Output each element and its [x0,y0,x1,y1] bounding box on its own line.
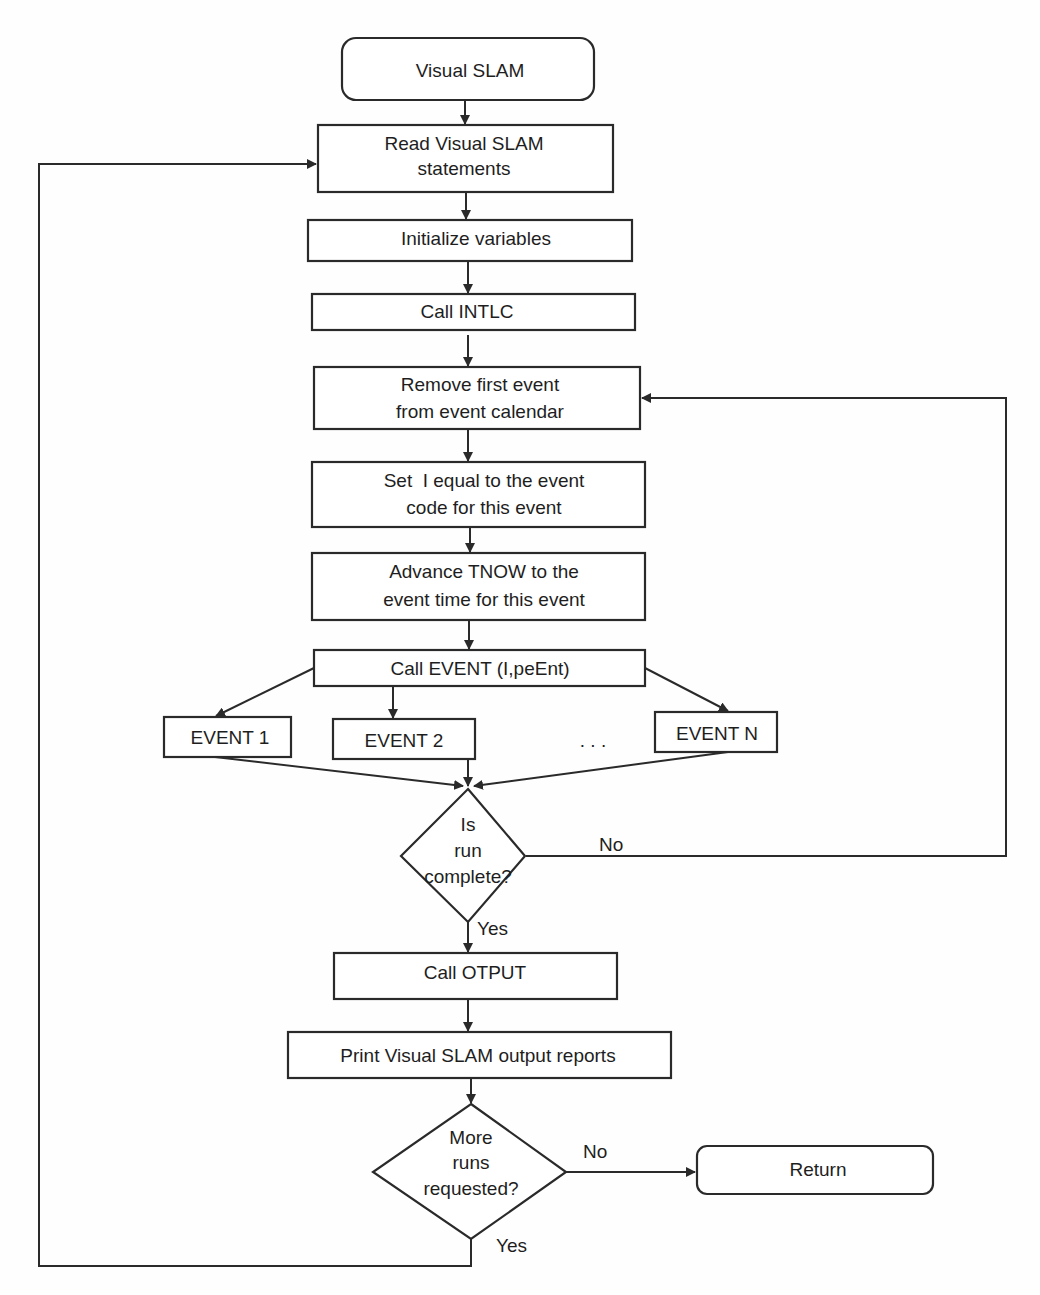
read-label-line1: Read Visual SLAM [384,133,543,154]
run-complete-line2: run [454,840,481,861]
node-more-runs-decision: More runs requested? [373,1104,566,1239]
edge-label-more-yes: Yes [496,1235,527,1256]
more-runs-line1: More [449,1127,492,1148]
intlc-label: Call INTLC [421,301,514,322]
event1-label: EVENT 1 [191,727,270,748]
node-initialize-variables: Initialize variables [308,220,632,261]
node-event-1: EVENT 1 [164,717,291,757]
start-label: Visual SLAM [416,60,524,81]
node-event-2: EVENT 2 [333,719,475,759]
node-run-complete-decision: Is run complete? [401,789,525,922]
arrow-callevent-to-eventN [645,668,728,711]
node-call-event: Call EVENT (I,peEnt) [314,650,645,686]
eventN-label: EVENT N [676,723,758,744]
more-runs-line2: runs [453,1152,490,1173]
node-start-terminator: Visual SLAM [342,38,594,100]
node-print-reports: Print Visual SLAM output reports [288,1032,671,1078]
otput-label: Call OTPUT [424,962,527,983]
advance-label-line1: Advance TNOW to the [389,561,579,582]
node-advance-tnow: Advance TNOW to the event time for this … [312,553,645,620]
setI-label-line2: code for this event [406,497,562,518]
ellipsis-more-events: . . . [580,730,606,751]
node-set-i-equal: Set I equal to the event code for this e… [312,462,645,527]
node-event-n: EVENT N [655,712,777,752]
run-complete-line1: Is [461,814,476,835]
remove-label-line1: Remove first event [401,374,560,395]
remove-label-line2: from event calendar [396,401,565,422]
node-call-otput: Call OTPUT [334,953,617,999]
more-runs-line3: requested? [423,1178,518,1199]
call-event-label: Call EVENT (I,peEnt) [390,658,569,679]
setI-label-line1: Set I equal to the event [384,470,585,491]
run-complete-line3: complete? [424,866,512,887]
arrow-eventN-to-run-complete [474,752,728,786]
flowchart-svg: Visual SLAM Read Visual SLAM statements … [0,0,1040,1295]
node-remove-first-event: Remove first event from event calendar [314,367,640,429]
arrow-event1-to-run-complete [215,757,463,786]
node-call-intlc: Call INTLC [312,294,635,330]
read-label-line2: statements [418,158,511,179]
edge-label-run-yes: Yes [477,918,508,939]
advance-label-line2: event time for this event [383,589,585,610]
node-read-statements: Read Visual SLAM statements [318,125,613,192]
edge-label-run-no: No [599,834,623,855]
print-label: Print Visual SLAM output reports [340,1045,615,1066]
edge-label-more-no: No [583,1141,607,1162]
init-label: Initialize variables [401,228,551,249]
event2-label: EVENT 2 [365,730,444,751]
arrow-callevent-to-event1 [216,668,314,716]
node-return-terminator: Return [697,1146,933,1194]
return-label: Return [789,1159,846,1180]
flowchart-canvas: Visual SLAM Read Visual SLAM statements … [0,0,1040,1295]
